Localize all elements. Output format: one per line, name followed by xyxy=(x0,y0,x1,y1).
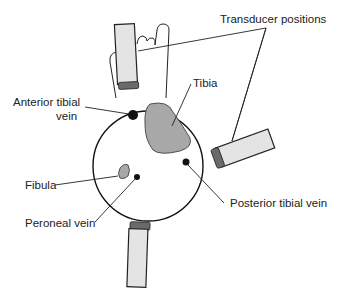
anterior-tibial-vein xyxy=(128,110,138,120)
transducer-top xyxy=(114,24,138,90)
label-anterior-tibial-vein-2: vein xyxy=(56,110,77,122)
tibia-shape xyxy=(145,103,191,153)
leg-cross-section-diagram: Transducer positions Tibia Anterior tibi… xyxy=(0,0,337,300)
label-fibula: Fibula xyxy=(25,179,57,191)
tibia-leader-line xyxy=(172,84,191,126)
label-transducer-positions: Transducer positions xyxy=(220,13,327,25)
label-anterior-tibial-vein-1: Anterior tibial xyxy=(13,96,80,108)
transducer-right xyxy=(211,129,275,169)
label-tibia: Tibia xyxy=(193,77,218,89)
label-posterior-tibial-vein: Posterior tibial vein xyxy=(230,197,327,209)
posterior-tibial-vein xyxy=(183,159,190,166)
transducer-bottom xyxy=(127,222,150,288)
anterior-tibial-vein-leader-line xyxy=(85,107,129,114)
label-peroneal-vein: Peroneal vein xyxy=(25,217,95,229)
